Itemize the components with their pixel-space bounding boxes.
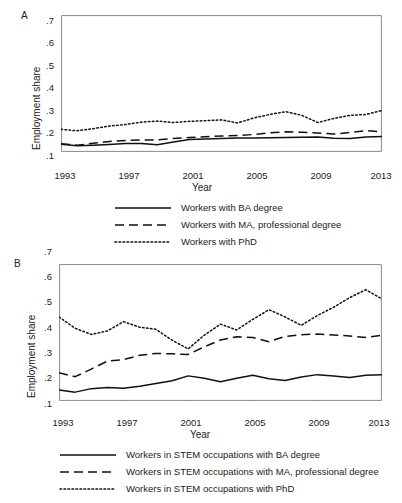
panel-b-ytick-2: .3 bbox=[30, 347, 52, 358]
panel-a-xtick-0: 1993 bbox=[44, 170, 86, 181]
legend-key-dashed-icon bbox=[58, 466, 118, 478]
panel-b-xtick-5: 2013 bbox=[358, 417, 400, 428]
panel-b-ytick-6: .7 bbox=[30, 246, 52, 257]
legend-key-solid-icon bbox=[58, 449, 118, 461]
panel-b-ytick-3: .4 bbox=[30, 322, 52, 333]
panel-b-xtick-3: 2005 bbox=[234, 417, 276, 428]
chart-series-line bbox=[61, 110, 382, 130]
legend-item: Workers with PhD bbox=[113, 233, 341, 250]
legend-item: Workers with MA, professional degree bbox=[113, 216, 341, 233]
legend-label: Workers in STEM occupations with PhD bbox=[126, 483, 294, 495]
panel-b-ytick-1: .2 bbox=[30, 372, 52, 383]
panel-b-ytick-4: .5 bbox=[30, 296, 52, 307]
panel-a-xtick-5: 2013 bbox=[360, 170, 402, 181]
legend-label: Workers in STEM occupations with BA degr… bbox=[126, 449, 320, 461]
panel-a-xtick-2: 2001 bbox=[172, 170, 214, 181]
panel-b-x-axis-label: Year bbox=[179, 429, 221, 440]
panel-a-label: A bbox=[21, 10, 28, 21]
legend-label: Workers in STEM occupations with MA, pro… bbox=[126, 466, 379, 478]
panel-a-plot-area bbox=[61, 15, 382, 152]
panel-a-x-axis-label: Year bbox=[181, 182, 223, 193]
panel-a-ytick-2: .3 bbox=[32, 105, 54, 116]
legend-label: Workers with MA, professional degree bbox=[181, 219, 341, 231]
chart-series-line bbox=[59, 375, 382, 393]
legend-key-solid-icon bbox=[113, 202, 173, 214]
panel-a: A Employment share .1 .2 .3 .4 .5 .6 .7 … bbox=[0, 0, 402, 250]
panel-a-ytick-0: .1 bbox=[32, 150, 54, 161]
chart-svg bbox=[59, 264, 382, 401]
legend-item: Workers in STEM occupations with MA, pro… bbox=[58, 463, 379, 480]
legend-item: Workers in STEM occupations with PhD bbox=[58, 480, 379, 497]
panel-a-legend: Workers with BA degreeWorkers with MA, p… bbox=[113, 199, 341, 250]
chart-series-line bbox=[59, 334, 382, 377]
panel-a-ytick-3: .4 bbox=[32, 82, 54, 93]
panel-b-ytick-5: .6 bbox=[30, 271, 52, 282]
legend-key-dotted-icon bbox=[58, 483, 118, 495]
legend-label: Workers with PhD bbox=[181, 236, 257, 248]
legend-item: Workers in STEM occupations with BA degr… bbox=[58, 446, 379, 463]
panel-b: B Employment share .1 .2 .3 .4 .5 .6 .7 … bbox=[0, 250, 402, 503]
panel-b-xtick-0: 1993 bbox=[42, 417, 84, 428]
panel-b-ytick-0: .1 bbox=[30, 398, 52, 409]
plot-frame bbox=[60, 265, 382, 401]
panel-b-label: B bbox=[14, 258, 21, 269]
panel-a-xtick-3: 2005 bbox=[236, 170, 278, 181]
panel-b-xtick-2: 2001 bbox=[170, 417, 212, 428]
panel-b-plot-area bbox=[59, 264, 382, 401]
legend-label: Workers with BA degree bbox=[181, 202, 283, 214]
plot-frame bbox=[62, 16, 382, 152]
panel-a-ytick-5: .6 bbox=[32, 37, 54, 48]
chart-svg bbox=[61, 15, 382, 152]
panel-b-legend: Workers in STEM occupations with BA degr… bbox=[58, 446, 379, 497]
legend-item: Workers with BA degree bbox=[113, 199, 341, 216]
panel-b-xtick-4: 2009 bbox=[298, 417, 340, 428]
legend-key-dotted-icon bbox=[113, 236, 173, 248]
panel-a-xtick-1: 1997 bbox=[108, 170, 150, 181]
panel-a-xtick-4: 2009 bbox=[300, 170, 342, 181]
panel-b-xtick-1: 1997 bbox=[106, 417, 148, 428]
panel-a-ytick-6: .7 bbox=[32, 15, 54, 26]
legend-key-dashed-icon bbox=[113, 219, 173, 231]
panel-a-ytick-4: .5 bbox=[32, 60, 54, 71]
panel-a-ytick-1: .2 bbox=[32, 127, 54, 138]
